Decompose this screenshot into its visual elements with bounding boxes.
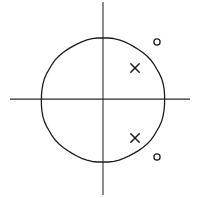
zero-upper-right (154, 39, 160, 45)
zero-lower-right (154, 154, 160, 160)
zero-marker-icon (154, 154, 160, 160)
zero-marker-icon (154, 39, 160, 45)
figure-canvas: Pole-zero plot on the complex plane with… (0, 0, 197, 198)
pole-zero-diagram: Pole-zero plot on the complex plane with… (0, 0, 197, 198)
pole-upper-right (131, 64, 139, 72)
pole-lower-right (131, 134, 139, 142)
